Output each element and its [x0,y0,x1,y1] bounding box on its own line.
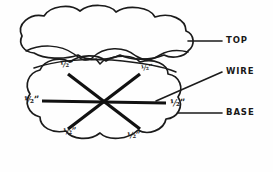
dimension-label-spoke-upper-right: ½” [140,63,153,72]
dimension-label-spoke-left: ½” [24,94,40,105]
base-cloud-shape [27,56,181,139]
callout-label-base: BASE [226,108,255,117]
callout-label-top: TOP [226,36,248,45]
callout-label-wire: WIRE [226,67,255,76]
dimension-label-spoke-lower-right: ½” [127,130,142,140]
leader-line-wire [156,72,222,101]
dimension-label-spoke-right: ½” [170,97,186,108]
sketch-layer [0,0,273,172]
dimension-label-spoke-upper-left: ½” [60,59,75,69]
dimension-label-spoke-lower-left: ½” [63,126,78,136]
diagram-canvas: TOP WIRE BASE ½” ½” ½” ½” ½” ½” [0,0,273,172]
